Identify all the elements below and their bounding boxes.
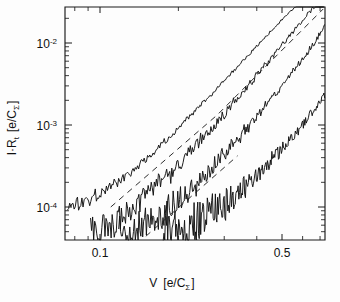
x-title-bracket-open: [e/C (163, 276, 185, 290)
y-tick-mantissa: 10 (37, 201, 51, 215)
y-tick-exponent: -3 (50, 119, 58, 128)
fit-dashed-1 (111, 9, 323, 207)
x-title-bracket-close: ] (191, 276, 194, 290)
y-title-main: I·R (5, 139, 19, 155)
x-axis-tick-labels: 0.10.5 (92, 246, 291, 260)
y-title-sub2: Σ (12, 105, 21, 110)
y-axis-ticks (65, 18, 325, 231)
y-axis-tick-labels: 10-210-310-4 (37, 37, 58, 215)
y-tick-label: 10-4 (37, 201, 58, 215)
log-log-plot: 0.10.5 10-210-310-4 V[e/CΣ] I·Rt[e/CΣ] (0, 0, 340, 302)
fit-dashed-2 (146, 156, 238, 236)
y-axis-title-text: I·Rt[e/CΣ] (5, 101, 21, 156)
y-title-bracket-open: [e/C (5, 110, 19, 132)
x-axis-title: V[e/CΣ] (149, 276, 194, 292)
y-title-sub1: t (12, 136, 21, 139)
x-axis-title-text: V[e/CΣ] (149, 276, 194, 292)
y-tick-label: 10-3 (37, 119, 58, 133)
curve-1-topmost (67, 7, 323, 210)
y-tick-label: 10-2 (37, 37, 58, 51)
y-title-bracket-close: ] (5, 101, 19, 104)
data-curves-group (67, 7, 324, 240)
y-tick-mantissa: 10 (37, 37, 51, 51)
figure-container: 0.10.5 10-210-310-4 V[e/CΣ] I·Rt[e/CΣ] (0, 0, 340, 302)
y-tick-mantissa: 10 (37, 119, 51, 133)
x-title-sub: Σ (185, 283, 190, 292)
curve-3 (119, 25, 325, 240)
y-axis-title: I·Rt[e/CΣ] (5, 101, 21, 156)
curve-4-lowest (163, 93, 324, 240)
y-tick-exponent: -2 (50, 37, 58, 46)
y-tick-exponent: -4 (50, 201, 58, 210)
x-tick-label: 0.1 (92, 246, 109, 260)
x-tick-label: 0.5 (274, 246, 291, 260)
x-title-main: V (149, 276, 157, 290)
